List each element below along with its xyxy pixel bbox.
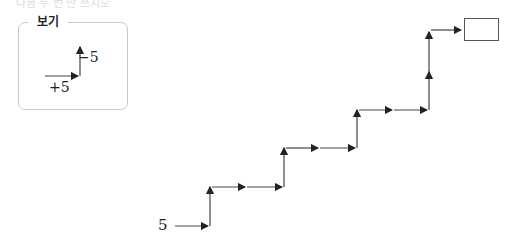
step-diagram [0, 0, 513, 247]
answer-box[interactable] [464, 18, 499, 41]
start-value: 5 [158, 216, 168, 234]
